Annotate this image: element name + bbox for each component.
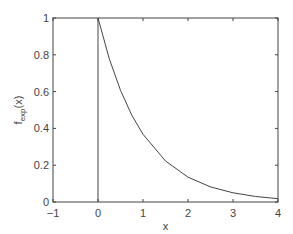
x-tick-label: 0 xyxy=(95,207,101,219)
plot-area: −10123400.20.40.60.81xfexp(x) xyxy=(12,12,281,232)
y-tick-label: 1 xyxy=(43,12,49,24)
y-tick-label: 0 xyxy=(43,196,49,208)
chart: −10123400.20.40.60.81xfexp(x) xyxy=(0,0,293,234)
x-axis-label: x xyxy=(163,220,169,232)
y-tick-label: 0.2 xyxy=(34,159,49,171)
y-tick-label: 0.8 xyxy=(34,49,49,61)
y-tick-label: 0.6 xyxy=(34,86,49,98)
x-tick-label: 3 xyxy=(230,207,236,219)
x-tick-label: 1 xyxy=(140,207,146,219)
x-tick-label: −1 xyxy=(47,207,60,219)
x-tick-label: 4 xyxy=(275,207,281,219)
axes-box xyxy=(53,18,278,202)
x-tick-label: 2 xyxy=(185,207,191,219)
y-tick-label: 0.4 xyxy=(34,122,49,134)
y-axis-label: fexp(x) xyxy=(12,96,27,125)
exp-curve xyxy=(98,18,278,199)
